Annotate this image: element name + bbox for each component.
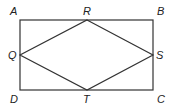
label-c: C [157,93,165,105]
label-d: D [10,93,18,105]
label-s: S [156,49,164,61]
label-r: R [83,5,91,17]
rectangle-abcd [20,20,153,90]
label-q: Q [8,49,17,61]
label-b: B [157,5,164,17]
geometry-diagram: A R B Q S D T C [0,0,170,109]
rhombus-qrst [20,20,153,90]
label-a: A [9,5,17,17]
label-t: T [83,93,91,105]
